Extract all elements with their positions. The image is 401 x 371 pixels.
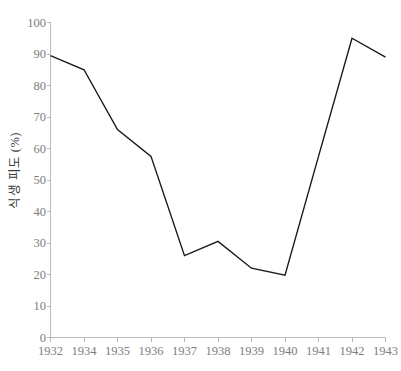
x-tick-label: 1932 xyxy=(38,344,63,359)
x-tick-label: 1936 xyxy=(139,344,164,359)
x-tick-label: 1938 xyxy=(206,344,231,359)
line-chart: 식생 피도 (%) 0102030405060708090100 1932193… xyxy=(0,0,401,371)
x-axis-tickmarks xyxy=(51,338,386,342)
axis-spines xyxy=(51,23,386,338)
x-tick-label: 1937 xyxy=(172,344,197,359)
x-tick-label: 1934 xyxy=(72,344,97,359)
x-tick-label: 1940 xyxy=(273,344,298,359)
x-tick-label: 1943 xyxy=(373,344,398,359)
x-tick-label: 1942 xyxy=(340,344,365,359)
x-tick-label: 1939 xyxy=(239,344,264,359)
plot-area xyxy=(0,0,401,371)
x-tick-label: 1935 xyxy=(105,344,130,359)
x-axis-tick-labels: 1932193419351936193719381939194019411942… xyxy=(0,344,401,366)
data-series-line xyxy=(51,38,386,275)
x-tick-label: 1941 xyxy=(306,344,331,359)
y-axis-tickmarks xyxy=(47,23,51,338)
